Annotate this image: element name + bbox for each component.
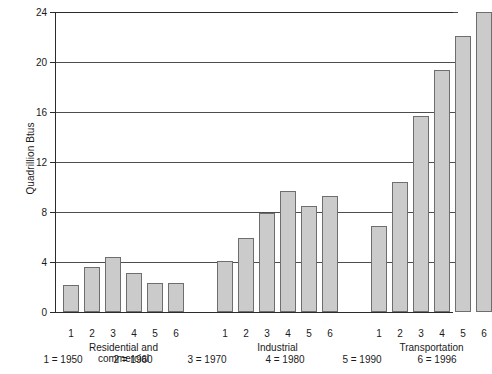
bar: [476, 12, 492, 312]
bar: [392, 182, 408, 312]
bar: [259, 213, 275, 312]
bar: [105, 257, 121, 312]
x-axis-line: [55, 312, 453, 313]
bar: [301, 206, 317, 312]
bar: [280, 191, 296, 312]
bar: [238, 238, 254, 312]
y-tick-label-16: 16: [36, 107, 47, 118]
x-tick-label: 4: [439, 328, 445, 339]
key-entry: 3 = 1970: [187, 354, 226, 365]
y-tick-label-12: 12: [36, 157, 47, 168]
key-entry: 6 = 1996: [417, 354, 456, 365]
x-tick-label: 1: [222, 328, 228, 339]
x-tick-label: 5: [460, 328, 466, 339]
x-tick-label: 2: [243, 328, 249, 339]
x-tick-label: 3: [264, 328, 270, 339]
bar: [63, 285, 79, 313]
x-tick-label: 2: [397, 328, 403, 339]
bar: [147, 283, 163, 312]
bar: [84, 267, 100, 312]
y-tick-label-24: 24: [36, 7, 47, 18]
x-tick-label: 5: [152, 328, 158, 339]
legend-key: 1 = 19502 = 19603 = 19704 = 19805 = 1990…: [0, 354, 465, 370]
group-label: Industrial: [257, 342, 298, 353]
y-axis-line: [55, 12, 56, 313]
gridline-16: [55, 112, 453, 113]
x-tick-label: 3: [110, 328, 116, 339]
x-tick-label: 6: [481, 328, 487, 339]
plot-area: 04812162024 123456123456123456 Residenti…: [55, 12, 453, 313]
y-axis-title: Quadrillion Btus: [25, 59, 36, 259]
key-entry: 2 = 1960: [113, 354, 152, 365]
x-tick-label: 4: [285, 328, 291, 339]
key-entry: 5 = 1990: [342, 354, 381, 365]
gridline-20: [55, 62, 453, 63]
group-label: Transportation: [399, 342, 463, 353]
x-tick-label: 6: [327, 328, 333, 339]
bar: [217, 261, 233, 312]
y-tick-label-8: 8: [41, 207, 47, 218]
bar: [434, 70, 450, 313]
y-tick-mark-right-24: [453, 12, 458, 13]
y-tick-label-4: 4: [41, 257, 47, 268]
x-tick-label: 4: [131, 328, 137, 339]
x-tick-label: 1: [68, 328, 74, 339]
key-entry: 4 = 1980: [265, 354, 304, 365]
y-tick-label-0: 0: [41, 307, 47, 318]
bar: [126, 273, 142, 312]
x-tick-label: 3: [418, 328, 424, 339]
bar: [455, 36, 471, 312]
x-tick-label: 5: [306, 328, 312, 339]
x-tick-label: 6: [173, 328, 179, 339]
bar: [322, 196, 338, 312]
y-tick-label-20: 20: [36, 57, 47, 68]
key-entry: 1 = 1950: [43, 354, 82, 365]
gridline-12: [55, 162, 453, 163]
x-tick-label: 1: [376, 328, 382, 339]
x-tick-label: 2: [89, 328, 95, 339]
gridline-24: [55, 12, 453, 13]
bar: [371, 226, 387, 312]
bar: [413, 116, 429, 312]
bar: [168, 283, 184, 312]
